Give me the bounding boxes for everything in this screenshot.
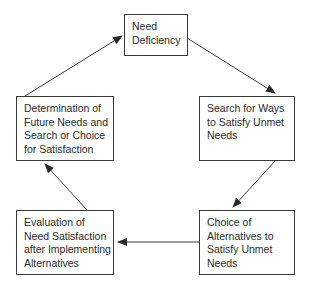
- node-text: Needs: [207, 129, 294, 143]
- node-search-ways: Search for Ways to Satisfy Unmet Needs: [199, 96, 295, 161]
- arrow-evaluation-to-determination: [45, 164, 87, 210]
- node-determination: Determination of Future Needs and Search…: [16, 96, 114, 161]
- node-evaluation: Evaluation of Need Satisfaction after Im…: [16, 210, 114, 275]
- arrow-determination-to-need: [25, 36, 122, 96]
- node-choice-alternatives: Choice of Alternatives to Satisfy Unmet …: [199, 210, 295, 275]
- arrow-need-to-search: [187, 38, 275, 93]
- node-need-deficiency: Need Deficiency: [124, 14, 188, 56]
- node-text: Need Satisfaction: [24, 230, 113, 244]
- node-text: Alternatives to: [207, 230, 294, 244]
- node-text: Search or Choice: [24, 129, 113, 143]
- node-text: Search for Ways: [207, 102, 294, 116]
- node-text: Deficiency: [132, 34, 187, 48]
- node-text: Need: [132, 20, 187, 34]
- node-text: Satisfy Unmet: [207, 243, 294, 257]
- node-text: Alternatives: [24, 257, 113, 271]
- node-text: for Satisfaction: [24, 143, 113, 157]
- node-text: Evaluation of: [24, 216, 113, 230]
- node-text: Choice of: [207, 216, 294, 230]
- node-text: Determination of: [24, 102, 113, 116]
- arrow-search-to-choice: [233, 160, 276, 207]
- node-text: Needs: [207, 257, 294, 271]
- node-text: to Satisfy Unmet: [207, 116, 294, 130]
- node-text: Future Needs and: [24, 116, 113, 130]
- node-text: after Implementing: [24, 243, 113, 257]
